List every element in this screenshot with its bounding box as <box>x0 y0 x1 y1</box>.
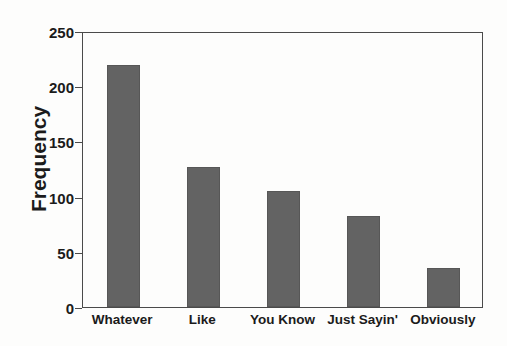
y-axis-tick-mark <box>75 253 82 254</box>
x-axis-tick-label: Whatever <box>92 312 153 327</box>
bar <box>347 216 380 307</box>
bar <box>267 191 300 307</box>
bar-chart-figure: Frequency 050100150200250 WhateverLikeYo… <box>0 0 507 346</box>
y-axis-tick-mark <box>75 308 82 309</box>
bar <box>107 65 140 307</box>
x-axis-tick-label: Obviously <box>410 312 475 327</box>
plot-area <box>82 32 483 308</box>
y-axis-tick-label: 100 <box>34 189 74 206</box>
y-axis-tick-mark <box>75 32 82 33</box>
x-axis-tick-label: You Know <box>250 312 315 327</box>
y-axis-tick-label: 50 <box>34 244 74 261</box>
x-axis-tick-label: Like <box>189 312 216 327</box>
y-axis-tick-label: 200 <box>34 79 74 96</box>
y-axis-tick-mark <box>75 142 82 143</box>
bar <box>187 167 220 307</box>
y-axis-tick-label: 150 <box>34 134 74 151</box>
bar <box>427 268 460 307</box>
y-axis-tick-mark <box>75 87 82 88</box>
y-axis-tick-mark <box>75 198 82 199</box>
x-axis-tick-label: Just Sayin' <box>327 312 398 327</box>
y-axis-tick-label: 0 <box>34 300 74 317</box>
y-axis-title: Frequency <box>27 79 51 239</box>
y-axis-tick-label: 250 <box>34 24 74 41</box>
